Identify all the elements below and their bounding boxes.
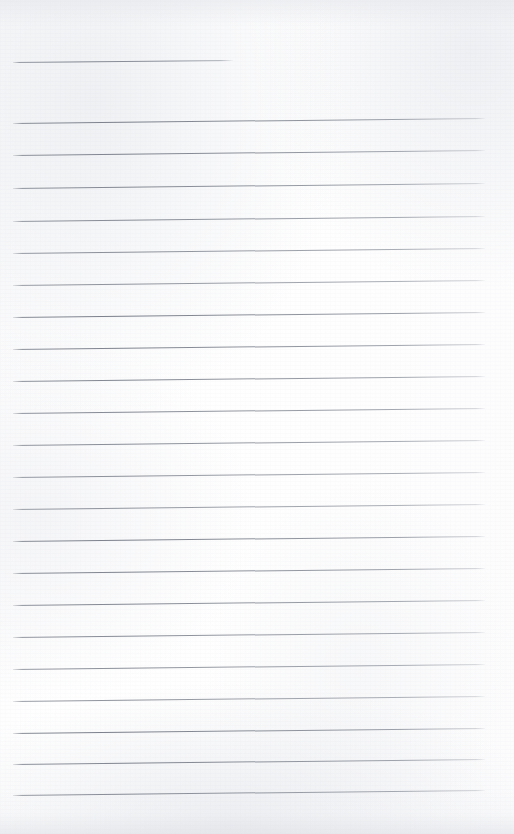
ruled-line	[13, 408, 485, 414]
scanned-page	[0, 0, 514, 834]
paper-grain-texture	[0, 0, 514, 834]
ruled-line	[13, 790, 485, 796]
ruled-line	[13, 600, 485, 606]
ruled-line	[13, 216, 485, 222]
ruled-line	[13, 376, 485, 382]
ruled-line	[13, 632, 485, 638]
ruled-line	[13, 472, 485, 478]
ruled-line	[13, 440, 485, 446]
header-rule	[13, 60, 233, 63]
ruled-line	[13, 312, 485, 318]
ruled-line	[13, 183, 485, 189]
ruled-line	[13, 248, 485, 254]
ruled-line	[13, 280, 485, 286]
ruled-line	[13, 536, 485, 542]
ruled-line	[13, 664, 485, 670]
ruled-line	[13, 118, 485, 124]
ruled-line	[13, 759, 485, 765]
ruled-line	[13, 568, 485, 574]
ruled-line	[13, 150, 485, 156]
ruled-line	[13, 344, 485, 350]
ruled-line	[13, 728, 485, 734]
ruled-line	[13, 696, 485, 702]
scan-top-shading	[0, 0, 514, 26]
ruled-line	[13, 504, 485, 510]
